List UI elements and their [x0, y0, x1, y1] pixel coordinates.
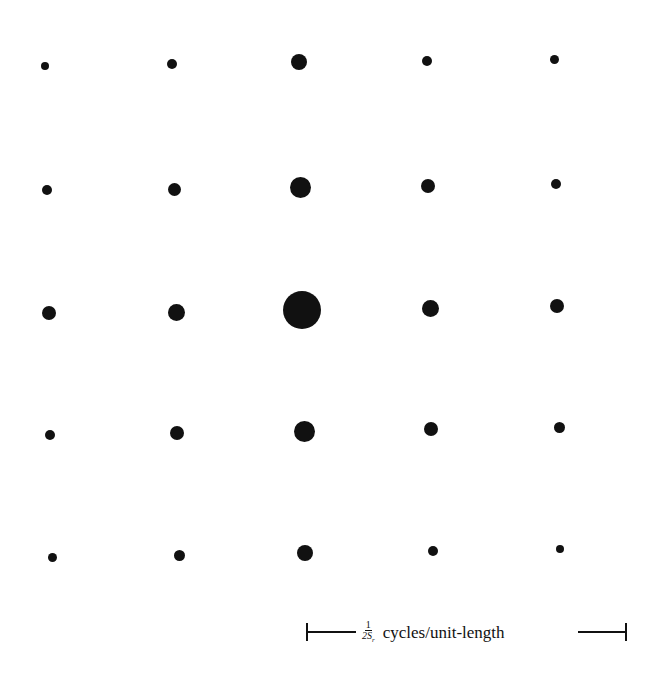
lattice-dot	[556, 545, 564, 553]
lattice-dot	[294, 421, 315, 442]
lattice-dot	[41, 62, 49, 70]
lattice-dot	[167, 59, 177, 69]
lattice-dot	[550, 55, 559, 64]
lattice-dot	[424, 422, 438, 436]
lattice-dot	[290, 177, 311, 198]
lattice-dot	[422, 56, 432, 66]
lattice-dot	[42, 306, 56, 320]
lattice-dot	[174, 550, 185, 561]
lattice-dot	[170, 426, 184, 440]
scale-bar-left-line	[306, 631, 356, 633]
lattice-dot	[48, 553, 57, 562]
lattice-dot	[168, 183, 181, 196]
scale-bar-label: 1 2Sr cycles/unit-length	[362, 620, 505, 645]
scale-bar-right-tick	[625, 623, 627, 641]
lattice-dot	[45, 430, 55, 440]
lattice-dot	[283, 291, 321, 329]
scale-bar-right-line	[578, 631, 626, 633]
scale-fraction: 1 2Sr	[362, 620, 375, 645]
lattice-dot	[297, 545, 313, 561]
scale-unit-text: cycles/unit-length	[383, 623, 505, 643]
lattice-dot	[551, 179, 561, 189]
lattice-dot	[550, 299, 564, 313]
lattice-dot	[168, 304, 185, 321]
lattice-dot	[428, 546, 438, 556]
lattice-dot	[421, 179, 435, 193]
lattice-figure: 1 2Sr cycles/unit-length	[0, 0, 659, 679]
lattice-dot	[291, 54, 307, 70]
lattice-dot	[554, 422, 565, 433]
lattice-dot	[42, 185, 52, 195]
scale-bar: 1 2Sr cycles/unit-length	[306, 620, 628, 644]
lattice-dot	[422, 300, 439, 317]
